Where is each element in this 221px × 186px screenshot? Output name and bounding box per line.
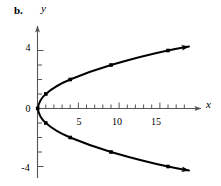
upper-branch-curve	[38, 47, 189, 109]
y-axis-label: y	[41, 3, 46, 14]
data-point	[68, 136, 72, 140]
x-tick-label-10: 10	[108, 117, 126, 127]
x-tick-label-15: 15	[147, 117, 165, 127]
plot-area	[0, 0, 221, 186]
data-point	[44, 92, 48, 96]
data-point	[36, 107, 40, 111]
x-tick-label-5: 5	[72, 117, 86, 127]
figure-container: b. y x 4 0 -4 5 10 15	[0, 0, 221, 186]
panel-label: b.	[14, 4, 23, 16]
x-axis-ticks	[46, 103, 185, 109]
y-tick-label-0: 0	[22, 104, 34, 114]
y-tick-label-4: 4	[22, 43, 34, 53]
data-point	[44, 121, 48, 125]
data-point	[109, 63, 113, 67]
data-point	[68, 78, 72, 82]
data-point	[166, 49, 170, 53]
data-point	[109, 150, 113, 154]
x-axis-label: x	[206, 99, 211, 110]
data-point	[166, 165, 170, 169]
y-tick-label--4: -4	[17, 163, 34, 173]
